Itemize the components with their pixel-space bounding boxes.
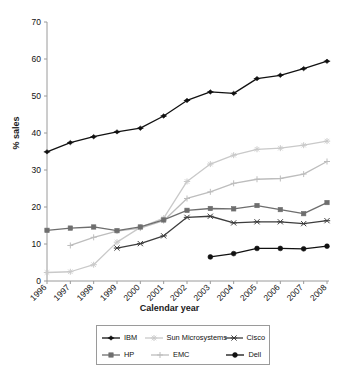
x-tick-label: 1997 xyxy=(51,282,72,303)
legend-item-sun-microsystems[interactable]: Sun Microsystems xyxy=(144,333,224,343)
x-tick-label: 2006 xyxy=(261,282,282,303)
legend-label: Dell xyxy=(248,350,261,360)
y-tick-label: 50 xyxy=(32,91,42,101)
y-tick-label: 30 xyxy=(32,165,42,175)
legend-marker-icon xyxy=(224,333,244,343)
legend-marker-icon xyxy=(144,333,164,343)
legend-label: IBM xyxy=(124,333,137,343)
x-tick-label: 2002 xyxy=(168,282,189,303)
y-tick-label: 10 xyxy=(32,239,42,249)
y-axis-title: % sales xyxy=(11,103,21,163)
axes-layer: 010203040506070 xyxy=(32,17,329,286)
legend-marker-icon xyxy=(101,333,121,343)
legend-row: IBMSun MicrosystemsCisco xyxy=(101,329,265,346)
series-cisco xyxy=(114,214,330,251)
line-chart-plot: 010203040506070 199619971998199920002001… xyxy=(0,0,339,376)
x-tick-labels: 1996199719981999200020012002200320042005… xyxy=(28,281,329,303)
chart-figure: 010203040506070 199619971998199920002001… xyxy=(0,0,339,376)
legend-label: Sun Microsystems xyxy=(167,333,227,343)
x-tick-label: 2003 xyxy=(191,282,212,303)
legend-label: Cisco xyxy=(247,333,265,343)
x-tick-label: 1999 xyxy=(98,282,119,303)
legend-item-hp[interactable]: HP xyxy=(101,350,150,360)
legend-label: HP xyxy=(124,350,134,360)
y-tick-label: 40 xyxy=(32,128,42,138)
y-tick-label: 70 xyxy=(32,17,42,27)
y-tick-label: 20 xyxy=(32,202,42,212)
series-hp xyxy=(45,200,329,233)
legend-row: HPEMCDell xyxy=(101,346,265,363)
series-layer xyxy=(44,59,330,275)
chart-legend: IBMSun MicrosystemsCiscoHPEMCDell xyxy=(96,325,270,365)
legend-item-cisco[interactable]: Cisco xyxy=(224,333,265,343)
legend-marker-icon xyxy=(101,350,121,360)
x-tick-label: 1996 xyxy=(28,282,49,303)
legend-item-dell[interactable]: Dell xyxy=(225,350,265,360)
legend-marker-icon xyxy=(150,350,170,360)
x-tick-label: 2005 xyxy=(238,282,259,303)
legend-label: EMC xyxy=(173,350,189,360)
x-tick-label: 1998 xyxy=(75,282,96,303)
x-tick-label: 2008 xyxy=(308,282,329,303)
x-tick-label: 2004 xyxy=(215,282,236,303)
x-tick-label: 2000 xyxy=(121,282,142,303)
series-dell xyxy=(208,244,329,260)
legend-item-emc[interactable]: EMC xyxy=(150,350,225,360)
legend-marker-icon xyxy=(225,350,245,360)
series-sun-microsystems xyxy=(44,138,330,275)
x-tick-label: 2007 xyxy=(285,282,306,303)
legend-item-ibm[interactable]: IBM xyxy=(101,333,144,343)
series-ibm xyxy=(44,59,330,154)
x-axis-title: Calendar year xyxy=(0,303,339,313)
x-tick-label: 2001 xyxy=(145,282,166,303)
y-tick-label: 60 xyxy=(32,54,42,64)
